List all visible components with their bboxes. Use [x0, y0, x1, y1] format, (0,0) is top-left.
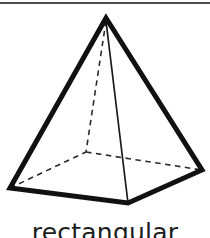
figure-caption: rectangular: [0, 219, 210, 238]
figure-caption-text: rectangular: [0, 219, 210, 238]
rectangular-pyramid-diagram: [0, 0, 210, 218]
visible-outline-thick: [10, 18, 202, 203]
hidden-edge-base-back-to-right: [86, 152, 202, 170]
geometric-solid-figure-card: rectangular: [0, 0, 210, 238]
